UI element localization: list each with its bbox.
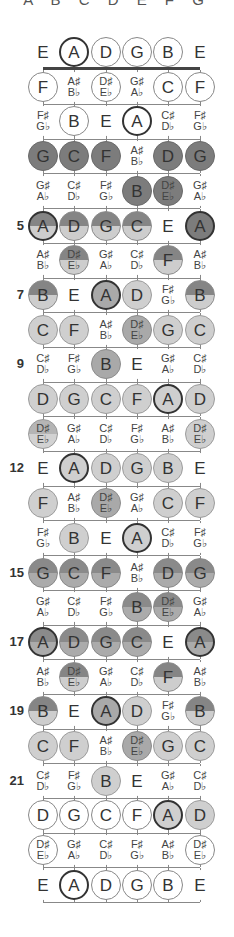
note-d-string-fret-22: C	[91, 800, 121, 830]
note-e-string-fret-17: A	[28, 627, 58, 657]
note-label: D♯ E♭	[36, 423, 49, 445]
fret-number-9: 9	[2, 356, 24, 371]
note-label: D	[37, 391, 49, 408]
note-label: C	[194, 738, 206, 755]
note-g-string-fret-21: E	[122, 766, 152, 796]
note-label: C	[68, 565, 80, 582]
note-b-string-fret-15: D	[153, 558, 183, 588]
note-e-string-fret-17: A	[185, 627, 215, 657]
note-e-string-fret-7: B	[185, 280, 215, 310]
note-label: B	[162, 460, 173, 477]
note-label: D	[162, 148, 174, 165]
fret-number-19: 19	[2, 703, 24, 718]
note-label: A♯ B♭	[100, 319, 113, 341]
note-label: A♯ B♭	[37, 249, 50, 271]
note-label: C♯ D♭	[161, 527, 174, 549]
fret-line	[43, 694, 200, 695]
note-g-string-fret-20: D♯ E♭	[122, 731, 152, 761]
note-b-string-fret-21: G♯ A♭	[153, 766, 183, 796]
note-label: D♯ E♭	[130, 735, 143, 757]
note-g-string-fret-23: F♯ G♭	[122, 835, 152, 865]
note-label: B	[68, 113, 79, 130]
note-label: E	[131, 773, 142, 790]
note-label: E	[131, 356, 142, 373]
note-d-string-fret-21: B	[91, 766, 121, 796]
note-e-string-fret-23: D♯ E♭	[28, 835, 58, 865]
note-b-string-fret-18: F	[153, 662, 183, 692]
note-label: C♯ D♭	[99, 839, 112, 861]
note-g-string-fret-9: E	[122, 349, 152, 379]
note-label: D	[131, 287, 143, 304]
note-g-string-fret-16: B	[122, 592, 152, 622]
note-label: C	[162, 79, 174, 96]
note-label: E	[162, 634, 173, 651]
note-g-string-fret-6: C♯ D♭	[122, 245, 152, 275]
note-e-string-fret-8: C	[28, 315, 58, 345]
note-a-string-fret-9: F♯ G♭	[59, 349, 89, 379]
note-label: A	[194, 634, 205, 651]
note-d-string-fret-19: A	[91, 696, 121, 726]
note-label: G	[161, 738, 174, 755]
note-e-string-fret-6: A♯ B♭	[28, 245, 58, 275]
note-label: G	[130, 44, 143, 61]
note-label: G♯ A♭	[193, 596, 207, 618]
note-e-string-fret-11: D♯ E♭	[28, 419, 58, 449]
note-label: F	[101, 148, 111, 165]
note-label: C♯ D♭	[161, 110, 174, 132]
note-e-string-fret-18: A♯ B♭	[185, 662, 215, 692]
note-label: D	[194, 391, 206, 408]
note-label: F♯ G♭	[161, 284, 175, 306]
note-g-string-fret-24: G	[122, 870, 152, 900]
note-e-string-fret-19: B	[185, 696, 215, 726]
note-label: G♯ A♭	[130, 76, 144, 98]
note-a-string-fret-24: A	[59, 870, 89, 900]
note-g-string-fret-12: G	[122, 453, 152, 483]
note-e-string-fret-4: G♯ A♭	[28, 176, 58, 206]
note-g-string-fret-1: G♯ A♭	[122, 72, 152, 102]
note-label: C	[100, 807, 112, 824]
note-e-string-fret-24: E	[185, 870, 215, 900]
note-label: D♯ E♭	[99, 492, 112, 514]
note-e-string-fret-14: F♯ G♭	[185, 523, 215, 553]
note-label: E	[68, 703, 79, 720]
note-label: E	[194, 877, 205, 894]
note-e-string-fret-13: F	[28, 488, 58, 518]
note-label: G♯ A♭	[67, 423, 81, 445]
note-e-string-fret-13: F	[185, 488, 215, 518]
note-a-string-fret-21: F♯ G♭	[59, 766, 89, 796]
note-g-string-fret-0: G	[122, 37, 152, 67]
note-label: D♯ E♭	[161, 180, 174, 202]
fret-number-21: 21	[2, 773, 24, 788]
note-label: D♯ E♭	[193, 423, 206, 445]
fret-number-5: 5	[2, 218, 24, 233]
note-g-string-fret-19: D	[122, 696, 152, 726]
note-e-string-fret-7: B	[28, 280, 58, 310]
note-label: B	[100, 773, 111, 790]
note-label: F	[163, 252, 173, 269]
note-e-string-fret-22: D	[185, 800, 215, 830]
note-e-string-fret-9: C♯ D♭	[28, 349, 58, 379]
note-label: D♯ E♭	[99, 76, 112, 98]
note-e-string-fret-3: G	[185, 141, 215, 171]
note-a-string-fret-1: A♯ B♭	[59, 72, 89, 102]
fret-line	[43, 902, 200, 903]
fret-line	[43, 382, 200, 383]
note-e-string-fret-0: E	[28, 37, 58, 67]
note-label: D	[68, 218, 80, 235]
note-label: D	[100, 460, 112, 477]
fret-line	[43, 173, 200, 174]
fret-line	[43, 104, 200, 105]
fret-line	[43, 555, 200, 556]
note-g-string-fret-7: D	[122, 280, 152, 310]
note-label: B	[68, 530, 79, 547]
note-label: E	[162, 218, 173, 235]
note-label: C	[37, 738, 49, 755]
note-d-string-fret-15: F	[91, 558, 121, 588]
note-b-string-fret-20: G	[153, 731, 183, 761]
note-label: E	[68, 287, 79, 304]
note-b-string-fret-7: F♯ G♭	[153, 280, 183, 310]
note-b-string-fret-23: A♯ B♭	[153, 835, 183, 865]
note-e-string-fret-12: E	[185, 453, 215, 483]
note-label: D♯ E♭	[161, 596, 174, 618]
note-d-string-fret-7: A	[91, 280, 121, 310]
